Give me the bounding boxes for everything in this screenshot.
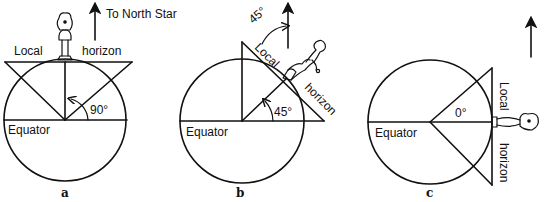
horizon-label-horizon-b: horizon: [302, 80, 340, 118]
triangle-side-a-left: [5, 62, 65, 120]
panel-caption-b: b: [236, 186, 244, 200]
panel-caption-c: c: [426, 186, 433, 200]
star-angle-label-b: 45°: [246, 4, 269, 27]
horizon-label-horizon-c: horizon: [497, 143, 511, 182]
horizon-label-local-c: Local: [497, 82, 511, 111]
north-star-label: To North Star: [106, 7, 177, 21]
equator-label-b: Equator: [186, 125, 228, 139]
angle-label-c: 0°: [455, 106, 467, 120]
angle-label-b: 45°: [274, 105, 292, 119]
lying-person-icon: [493, 114, 538, 131]
panel-caption-a: a: [61, 186, 69, 200]
panel-a: 90° Equator Local horizon To North Star …: [4, 7, 177, 200]
angle-label-a: 90°: [90, 103, 108, 117]
latitude-diagram: 90° Equator Local horizon To North Star …: [0, 0, 544, 202]
panel-c: 0° Equator Local horizon c: [368, 22, 538, 200]
standing-person-icon: [57, 13, 72, 60]
equator-label-a: Equator: [8, 123, 50, 137]
panel-b: 45° Equator Local horizon 45° b: [180, 4, 340, 200]
angle-arc-b: [265, 101, 273, 121]
horizon-label-local-a: Local: [14, 44, 43, 58]
star-angle-arc-b: [262, 26, 286, 44]
horizon-label-horizon-a: horizon: [82, 44, 121, 58]
equator-label-c: Equator: [375, 126, 417, 140]
leaning-person-icon: [283, 40, 325, 80]
